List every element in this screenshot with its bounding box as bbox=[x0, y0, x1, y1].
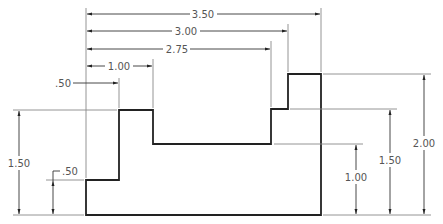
dim-label-1-00-right: 1.00 bbox=[345, 172, 367, 183]
dim-label-2-75: 2.75 bbox=[166, 44, 188, 55]
dim-label-0-50-left: .50 bbox=[62, 166, 78, 177]
dim-label-1-00-top: 1.00 bbox=[108, 61, 130, 72]
engineering-drawing: 3.50 3.00 2.75 1.00 .50 1.50 .50 1.00 1.… bbox=[0, 0, 443, 224]
dim-label-0-50-top: .50 bbox=[55, 78, 71, 89]
horizontal-dimensions bbox=[73, 14, 320, 83]
part-profile bbox=[86, 74, 321, 215]
dim-label-1-50-left: 1.50 bbox=[8, 158, 30, 169]
dim-label-3-50: 3.50 bbox=[192, 9, 214, 20]
extension-lines bbox=[13, 8, 431, 215]
dim-label-2-00-right: 2.00 bbox=[413, 138, 435, 149]
dim-label-3-00: 3.00 bbox=[175, 26, 197, 37]
dim-label-1-50-right: 1.50 bbox=[379, 155, 401, 166]
